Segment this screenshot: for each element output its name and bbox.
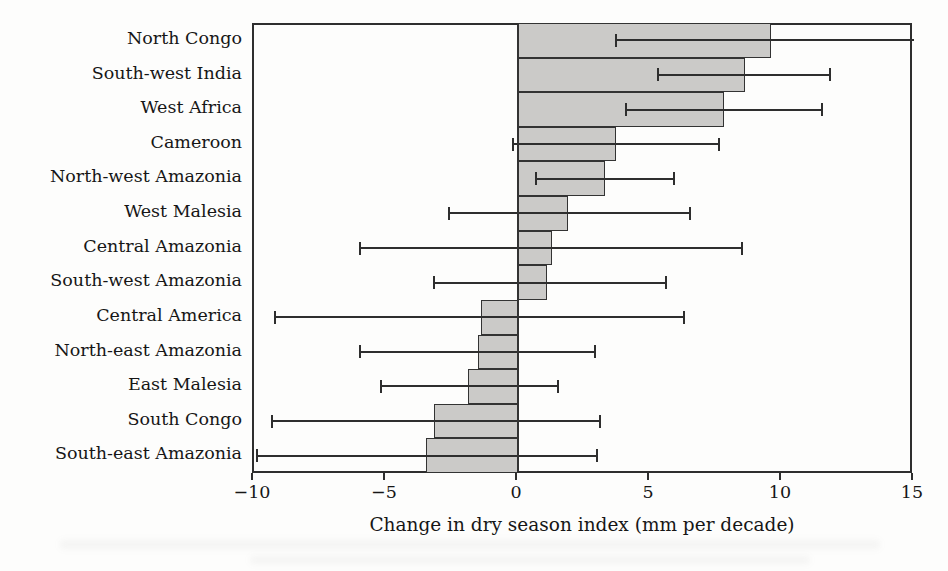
- error-cap-low: [359, 345, 361, 358]
- error-bar: [434, 282, 666, 284]
- error-cap-high: [673, 172, 675, 185]
- error-cap-high: [594, 345, 596, 358]
- error-cap-low: [615, 34, 617, 47]
- scan-artifact: [60, 540, 880, 549]
- plot-area: [252, 23, 912, 473]
- category-label: East Malesia: [0, 367, 242, 402]
- error-bar: [257, 455, 598, 457]
- x-axis-tick: [515, 473, 517, 480]
- x-axis-tick-label: 0: [484, 482, 548, 502]
- category-label: North-west Amazonia: [0, 159, 242, 194]
- error-bar: [449, 212, 689, 214]
- error-cap-high: [596, 449, 598, 462]
- error-cap-low: [256, 449, 258, 462]
- error-cap-low: [512, 138, 514, 151]
- x-axis-tick-label: −10: [220, 482, 284, 502]
- x-axis-tick-label: 15: [880, 482, 944, 502]
- error-cap-high: [718, 138, 720, 151]
- x-axis-tick-label: −5: [352, 482, 416, 502]
- error-bar: [275, 316, 684, 318]
- error-cap-high: [683, 311, 685, 324]
- error-bar: [513, 143, 719, 145]
- error-bar: [381, 385, 558, 387]
- x-axis-tick-label: 5: [616, 482, 680, 502]
- category-label: South Congo: [0, 402, 242, 437]
- category-label: North-east Amazonia: [0, 333, 242, 368]
- error-cap-low: [271, 415, 273, 428]
- category-label: Cameroon: [0, 125, 242, 160]
- error-cap-high: [665, 276, 667, 289]
- error-bar: [360, 351, 595, 353]
- error-bar: [360, 247, 743, 249]
- error-cap-low: [274, 311, 276, 324]
- scanned-book-page: North CongoSouth-west IndiaWest AfricaCa…: [0, 0, 948, 571]
- category-label: West Africa: [0, 90, 242, 125]
- category-label: South-west Amazonia: [0, 263, 242, 298]
- x-axis-title: Change in dry season index (mm per decad…: [252, 514, 912, 535]
- error-bar: [536, 178, 673, 180]
- error-cap-high: [821, 103, 823, 116]
- error-cap-low: [625, 103, 627, 116]
- error-bar: [616, 39, 914, 41]
- category-label: West Malesia: [0, 194, 242, 229]
- x-axis-tick: [647, 473, 649, 480]
- error-bar: [626, 109, 821, 111]
- error-cap-low: [657, 68, 659, 81]
- error-cap-high: [599, 415, 601, 428]
- zero-baseline: [517, 25, 519, 471]
- error-cap-low: [448, 207, 450, 220]
- x-axis-tick-label: 10: [748, 482, 812, 502]
- category-label: Central Amazonia: [0, 229, 242, 264]
- category-label: North Congo: [0, 21, 242, 56]
- error-cap-high: [829, 68, 831, 81]
- error-cap-high: [557, 380, 559, 393]
- x-axis-tick: [779, 473, 781, 480]
- x-axis-tick: [251, 473, 253, 480]
- category-label: Central America: [0, 298, 242, 333]
- error-bar: [272, 420, 599, 422]
- error-cap-low: [433, 276, 435, 289]
- category-label: South-east Amazonia: [0, 436, 242, 471]
- error-cap-low: [535, 172, 537, 185]
- error-bar: [658, 74, 830, 76]
- category-label: South-west India: [0, 56, 242, 91]
- x-axis-tick: [383, 473, 385, 480]
- error-cap-low: [380, 380, 382, 393]
- error-cap-high: [741, 242, 743, 255]
- error-cap-high: [689, 207, 691, 220]
- error-cap-low: [359, 242, 361, 255]
- x-axis-tick: [911, 473, 913, 480]
- scan-artifact: [250, 556, 810, 564]
